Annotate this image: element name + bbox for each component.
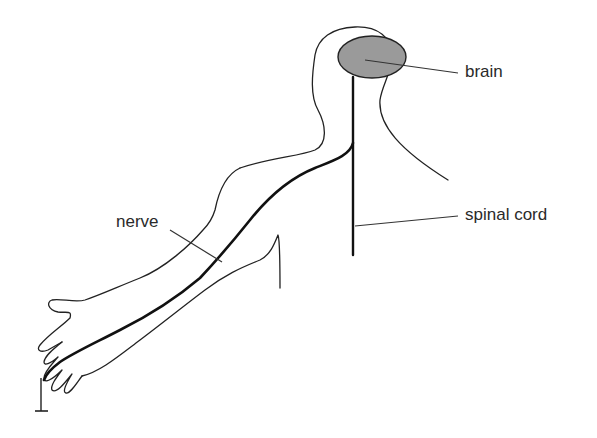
nerve-leader-line [170, 230, 222, 262]
brain-shape [338, 36, 406, 78]
spinal-cord-label: spinal cord [465, 205, 547, 225]
nerve-line [44, 143, 353, 380]
arm-lower-outline [82, 235, 280, 376]
arm-upper-outline [38, 168, 240, 351]
nerve-label: nerve [116, 212, 159, 232]
spinal-cord-leader-line [355, 216, 458, 226]
brain-label: brain [465, 62, 503, 82]
